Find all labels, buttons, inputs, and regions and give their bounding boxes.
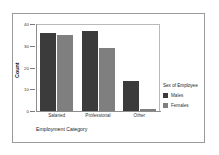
y-axis-tick-label: 30	[24, 43, 29, 48]
y-axis-tick-label: 20	[24, 65, 29, 70]
y-axis-tick-label: 0	[27, 109, 29, 114]
chart-container: 010203040 Count Employment Category Sex …	[0, 0, 219, 155]
x-axis-line	[36, 111, 161, 112]
bar-salaried-males[interactable]	[40, 33, 56, 111]
bars-layer	[36, 24, 160, 111]
bar-other-females[interactable]	[140, 109, 156, 111]
y-axis-title: Count	[14, 62, 20, 78]
bar-group	[82, 24, 115, 111]
legend-item[interactable]: Females	[163, 103, 207, 108]
y-axis-tick-label: 10	[24, 87, 29, 92]
y-axis-tick	[30, 24, 35, 25]
y-axis-tick	[30, 111, 35, 112]
legend-item-label: Females	[171, 103, 189, 108]
legend-item-label: Males	[171, 93, 183, 98]
x-axis-title: Employment Category	[36, 126, 87, 132]
bar-professional-females[interactable]	[99, 48, 115, 111]
x-axis-label: Salaried	[48, 113, 65, 118]
legend-swatch-icon	[163, 103, 168, 108]
bar-other-males[interactable]	[123, 81, 139, 111]
legend-swatch-icon	[163, 93, 168, 98]
bar-group	[40, 24, 73, 111]
bar-group	[123, 24, 156, 111]
bar-salaried-females[interactable]	[57, 35, 73, 111]
bar-professional-males[interactable]	[82, 31, 98, 111]
x-axis-label: Professional	[85, 113, 110, 118]
y-axis-tick	[30, 46, 35, 47]
x-axis-label: Other	[134, 113, 146, 118]
y-axis-tick-label: 40	[24, 22, 29, 27]
legend-item[interactable]: Males	[163, 93, 207, 98]
y-axis-tick	[30, 89, 35, 90]
legend-title: Sex of Employee	[163, 83, 207, 88]
legend-entries: MalesFemales	[163, 93, 207, 108]
y-axis-tick	[30, 68, 35, 69]
legend: Sex of Employee MalesFemales	[163, 83, 207, 113]
